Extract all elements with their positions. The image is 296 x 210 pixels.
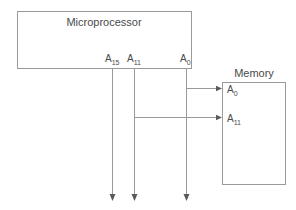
bus-arrow-a15-icon <box>110 194 116 201</box>
block-diagram-svg: Microprocessor A15 A11 A0 <box>0 0 296 210</box>
memory-box <box>223 83 286 185</box>
pin-label-a0-subscript: 0 <box>187 59 191 66</box>
pin-label-a15-subscript: 15 <box>112 59 120 66</box>
microprocessor-title: Microprocessor <box>66 16 142 28</box>
memory-pin-label-a11-subscript: 11 <box>234 119 241 126</box>
memory-branch-wires <box>135 86 223 120</box>
memory-title: Memory <box>234 67 274 79</box>
bus-arrow-a11-icon <box>132 194 138 201</box>
address-bus-lines <box>110 68 190 201</box>
branch-arrow-a0-icon <box>216 86 222 91</box>
diagram-canvas: Microprocessor A15 A11 A0 <box>0 0 296 210</box>
memory-pin-label-a0-subscript: 0 <box>234 90 238 97</box>
pin-label-a11-subscript: 11 <box>134 59 141 66</box>
branch-arrow-a11-icon <box>216 115 222 120</box>
bus-arrow-a0-icon <box>184 194 190 201</box>
